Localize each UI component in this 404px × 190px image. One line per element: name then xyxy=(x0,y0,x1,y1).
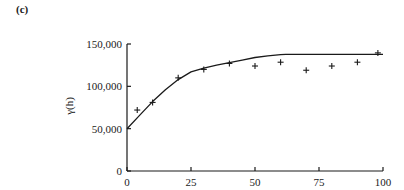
plus-marker-icon xyxy=(175,75,181,81)
y-tick-label: 150,000 xyxy=(86,38,122,50)
x-tick-label: 50 xyxy=(250,176,262,188)
x-tick-label: 25 xyxy=(186,176,198,188)
plus-marker-icon xyxy=(329,63,335,69)
plus-marker-icon xyxy=(134,107,140,113)
x-tick-label: 0 xyxy=(124,176,130,188)
plus-marker-icon xyxy=(303,67,309,73)
y-tick-label: 100,000 xyxy=(86,80,122,92)
x-tick-label: 100 xyxy=(375,176,392,188)
plus-marker-icon xyxy=(252,63,258,69)
y-axis-label: γ(h) xyxy=(63,97,76,116)
y-tick-label: 0 xyxy=(117,165,123,177)
y-tick-label: 50,000 xyxy=(92,123,123,135)
plus-marker-icon xyxy=(375,50,381,56)
plus-marker-icon xyxy=(226,60,232,66)
plus-marker-icon xyxy=(354,59,360,65)
x-tick-label: 75 xyxy=(314,176,326,188)
semivariogram-chart: 050,000100,000150,0000255075100 γ(h) xyxy=(0,0,404,190)
data-points xyxy=(134,50,381,113)
plus-marker-icon xyxy=(278,59,284,65)
